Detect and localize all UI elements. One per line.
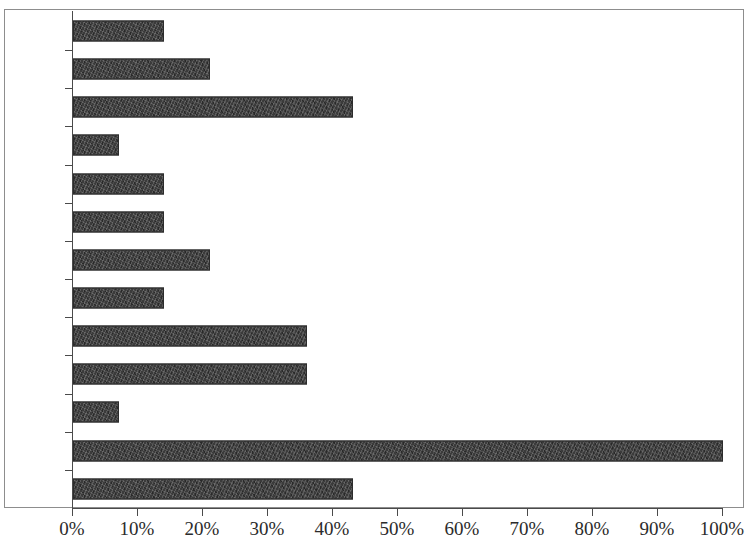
x-axis-tick bbox=[527, 509, 528, 516]
y-axis-tick bbox=[65, 165, 72, 166]
bar-row: 桡骨 bbox=[0, 241, 751, 279]
x-axis-tick bbox=[657, 509, 658, 516]
bar-row: 跖骨 bbox=[0, 12, 751, 50]
bar-row: 跟骨 bbox=[0, 50, 751, 88]
y-axis-tick bbox=[65, 470, 72, 471]
x-axis-tick bbox=[397, 509, 398, 516]
y-axis-tick bbox=[65, 394, 72, 395]
bar-row: 掌骨 bbox=[0, 203, 751, 241]
bar-row: 上腭 bbox=[0, 470, 751, 508]
bar-row: 寰椎 bbox=[0, 393, 751, 431]
bar bbox=[73, 478, 353, 499]
bar bbox=[73, 326, 307, 347]
x-axis-tick-label: 50% bbox=[380, 519, 415, 538]
bar-rows: 跖骨跟骨胫骨股骨盆骨掌骨桡骨尺骨肱骨肩胛骨寰椎下颌上腭 bbox=[0, 12, 751, 508]
x-axis-tick-label: 20% bbox=[185, 519, 220, 538]
bar-row: 股骨 bbox=[0, 126, 751, 164]
bar-row: 肱骨 bbox=[0, 317, 751, 355]
x-axis-tick bbox=[592, 509, 593, 516]
x-axis-tick-label: 0% bbox=[59, 519, 84, 538]
y-axis-tick bbox=[65, 126, 72, 127]
x-axis-tick-label: 60% bbox=[445, 519, 480, 538]
x-axis-tick bbox=[332, 509, 333, 516]
x-axis-tick-label: 70% bbox=[510, 519, 545, 538]
x-axis-tick bbox=[137, 509, 138, 516]
x-axis-tick bbox=[267, 509, 268, 516]
y-axis-tick bbox=[65, 241, 72, 242]
bar-row: 胫骨 bbox=[0, 88, 751, 126]
bar bbox=[73, 97, 353, 118]
bar-row: 盆骨 bbox=[0, 165, 751, 203]
y-axis-tick bbox=[65, 279, 72, 280]
x-axis-tick bbox=[462, 509, 463, 516]
y-axis-tick bbox=[65, 203, 72, 204]
bar bbox=[73, 402, 119, 423]
bar-row: 肩胛骨 bbox=[0, 355, 751, 393]
x-axis-tick-label: 30% bbox=[250, 519, 285, 538]
x-axis-tick bbox=[722, 509, 723, 516]
bar bbox=[73, 135, 119, 156]
bar-chart: 跖骨跟骨胫骨股骨盆骨掌骨桡骨尺骨肱骨肩胛骨寰椎下颌上腭 0%10%20%30%4… bbox=[0, 0, 751, 548]
x-axis-tick-label: 40% bbox=[315, 519, 350, 538]
bar bbox=[73, 21, 164, 42]
bar bbox=[73, 440, 723, 461]
bar bbox=[73, 249, 210, 270]
bar bbox=[73, 211, 164, 232]
x-axis-tick bbox=[202, 509, 203, 516]
y-axis-tick bbox=[65, 432, 72, 433]
x-axis-tick-label: 80% bbox=[575, 519, 610, 538]
bar bbox=[73, 59, 210, 80]
y-axis-tick bbox=[65, 50, 72, 51]
bar bbox=[73, 288, 164, 309]
x-axis-tick-label: 10% bbox=[120, 519, 155, 538]
y-axis-tick bbox=[65, 88, 72, 89]
y-axis-tick bbox=[65, 355, 72, 356]
x-axis-tick bbox=[72, 509, 73, 516]
bar bbox=[73, 173, 164, 194]
y-axis-tick bbox=[65, 317, 72, 318]
x-axis-tick-label: 100% bbox=[700, 519, 744, 538]
bar bbox=[73, 364, 307, 385]
bar-row: 尺骨 bbox=[0, 279, 751, 317]
x-axis-tick-label: 90% bbox=[640, 519, 675, 538]
bar-row: 下颌 bbox=[0, 432, 751, 470]
